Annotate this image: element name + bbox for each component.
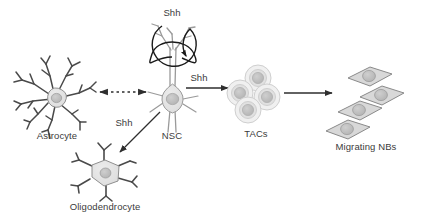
neuroblast-cell — [348, 67, 392, 86]
shh-tacs-label: Shh — [190, 72, 207, 83]
cell-migrating-nbs: Migrating NBs — [326, 67, 404, 152]
tacs-label: TACs — [244, 128, 268, 139]
shh-oligodendrocyte-label: Shh — [115, 117, 132, 128]
neuroblast-cell — [326, 120, 370, 139]
signal-shh-to-tacs: Shh — [186, 72, 228, 88]
cell-astrocyte: Astrocyte — [14, 56, 96, 141]
tac-nucleus — [252, 72, 263, 83]
diagram-canvas: Astrocyte — [0, 0, 431, 218]
neuroblast-nucleus — [375, 89, 388, 100]
migrating-nbs-label: Migrating NBs — [336, 141, 397, 152]
astrocyte-label: Astrocyte — [37, 130, 78, 141]
tac-cell — [235, 97, 261, 123]
neuroblast-nucleus — [341, 123, 354, 134]
nsc-apical-process — [152, 24, 195, 86]
cell-oligodendrocyte: Oligodendrocyte — [70, 143, 141, 212]
nsc-nucleus — [166, 93, 178, 104]
tac-nucleus — [242, 104, 253, 115]
signal-shh-to-oligodendrocyte: Shh — [115, 112, 160, 152]
neuroblast-cell — [338, 101, 382, 120]
nsc-label: NSC — [162, 130, 182, 141]
pathway-diagram: Astrocyte — [0, 0, 431, 218]
oligodendrocyte-label: Oligodendrocyte — [70, 201, 141, 212]
neuroblast-cell — [360, 86, 404, 105]
tac-nucleus — [234, 87, 245, 98]
tac-nucleus — [261, 91, 272, 102]
shh-autocrine-label: Shh — [163, 7, 180, 18]
cell-tacs: TACs — [227, 65, 280, 139]
oligodendrocyte-nucleus — [100, 168, 111, 178]
astrocyte-nucleus — [51, 93, 61, 102]
neuroblast-nucleus — [363, 70, 376, 81]
neuroblast-nucleus — [353, 104, 366, 115]
